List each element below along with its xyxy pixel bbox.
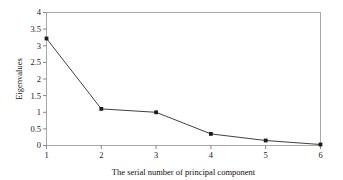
x-axis-title: The serial number of principal component [112, 167, 256, 177]
y-axis-title: Eigenvalues [14, 58, 24, 100]
data-point-1 [45, 37, 49, 41]
y-tick-label-2: 1 [37, 107, 41, 117]
data-point-6 [319, 143, 323, 147]
chart-canvas: 0 0.5 1 1.5 2 2.5 [0, 0, 343, 180]
data-point-3 [154, 110, 158, 114]
plot-area-frame [47, 13, 321, 146]
y-tick-label-0: 0 [37, 140, 41, 150]
y-tick-label-7: 3.5 [30, 24, 41, 34]
data-point-5 [264, 139, 268, 143]
y-tick-label-3: 1.5 [30, 91, 41, 101]
x-tick-label-4: 5 [264, 150, 268, 160]
y-tick-label-5: 2.5 [30, 57, 41, 67]
scree-plot-figure: 0 0.5 1 1.5 2 2.5 [0, 0, 343, 180]
data-point-2 [99, 107, 103, 111]
x-tick-label-0: 1 [44, 150, 48, 160]
x-tick-label-5: 6 [318, 150, 322, 160]
data-point-4 [209, 132, 213, 136]
y-tick-label-4: 2 [37, 74, 41, 84]
x-tick-label-1: 2 [99, 150, 103, 160]
x-tick-label-3: 4 [209, 150, 214, 160]
y-tick-label-6: 3 [37, 41, 41, 51]
x-tick-label-2: 3 [154, 150, 158, 160]
y-tick-label-1: 0.5 [30, 124, 41, 134]
